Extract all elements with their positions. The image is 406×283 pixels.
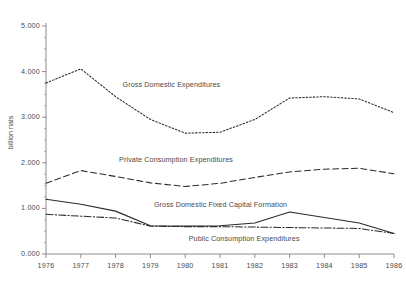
series-label-1: Private Consumption Expenditures	[119, 155, 233, 164]
x-tick-label: 1976	[30, 261, 62, 270]
y-tick-label: 4.000	[4, 67, 40, 76]
series-label-0: Gross Domestic Expenditures	[123, 80, 221, 89]
x-tick-label: 1985	[343, 261, 375, 270]
y-tick-label: 1.000	[4, 203, 40, 212]
x-tick-label: 1981	[204, 261, 236, 270]
y-tick-label: 0.000	[4, 249, 40, 258]
series-line-0	[46, 69, 394, 133]
series-line-3	[46, 214, 394, 233]
x-tick-label: 1983	[274, 261, 306, 270]
series-label-3: Public Consumption Expenditures	[189, 234, 300, 243]
series-label-2: Gross Domestic Fixed Capital Formation	[154, 200, 287, 209]
x-tick-label: 1979	[134, 261, 166, 270]
x-tick-label: 1984	[308, 261, 340, 270]
y-tick-label: 3.000	[4, 112, 40, 121]
y-tick-label: 5.000	[4, 21, 40, 30]
x-tick-label: 1977	[65, 261, 97, 270]
y-tick-label: 2.000	[4, 158, 40, 167]
x-tick-label: 1986	[378, 261, 406, 270]
chart-container: billion rials 0.0001.0002.0003.0004.0005…	[0, 0, 406, 283]
x-tick-label: 1978	[100, 261, 132, 270]
x-tick-label: 1980	[169, 261, 201, 270]
series-line-1	[46, 168, 394, 186]
x-tick-label: 1982	[239, 261, 271, 270]
